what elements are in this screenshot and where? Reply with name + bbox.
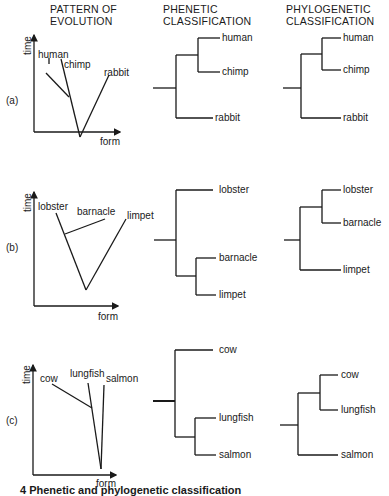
row-label-c: (c) — [6, 415, 18, 426]
figure-caption: 4 Phenetic and phylogenetic classificati… — [20, 484, 241, 496]
phylo-b-mid: barnacle — [343, 217, 382, 228]
phen-b-top: lobster — [219, 184, 250, 195]
y-axis-label-c: time — [21, 365, 32, 384]
phylogenetic-tree-b — [284, 190, 341, 270]
phen-b-mid: barnacle — [219, 252, 258, 263]
evo-label-cow: cow — [40, 373, 59, 384]
x-axis-label-b: form — [98, 311, 118, 322]
phylogenetic-tree-c — [280, 375, 338, 455]
x-axis-label-a: form — [100, 136, 120, 147]
phylo-c-bottom: salmon — [341, 449, 373, 460]
phylo-b-bottom: limpet — [343, 264, 370, 275]
phylo-c-top: cow — [341, 369, 360, 380]
evo-label-barnacle: barnacle — [77, 206, 116, 217]
evo-label-limpet: limpet — [127, 210, 154, 221]
phen-a-mid: chimp — [222, 66, 249, 77]
phen-b-bottom: limpet — [219, 289, 246, 300]
phylo-b-top: lobster — [343, 184, 374, 195]
row-label-a: (a) — [6, 95, 18, 106]
phen-a-bottom: rabbit — [215, 112, 240, 123]
phylo-a-mid: chimp — [343, 64, 370, 75]
evo-label-salmon: salmon — [106, 373, 138, 384]
evo-label-rabbit: rabbit — [104, 67, 129, 78]
phenetic-tree-a — [153, 38, 220, 118]
phen-c-mid: lungfish — [219, 412, 253, 423]
y-axis-label-a: time — [22, 36, 33, 55]
phylo-a-bottom: rabbit — [343, 112, 368, 123]
evo-label-chimp: chimp — [64, 59, 91, 70]
phylogenetic-tree-a — [283, 38, 341, 118]
evo-label-lobster: lobster — [38, 201, 69, 212]
phenetic-tree-b — [154, 190, 216, 295]
row-label-b: (b) — [6, 242, 18, 253]
phen-c-top: cow — [219, 344, 238, 355]
phen-a-top: human — [222, 32, 253, 43]
phylo-c-mid: lungfish — [341, 404, 375, 415]
phen-c-bottom: salmon — [219, 449, 251, 460]
phenetic-tree-c — [153, 350, 216, 455]
y-axis-label-b: time — [22, 193, 33, 212]
evo-label-lungfish: lungfish — [70, 368, 104, 379]
phylo-a-top: human — [343, 32, 374, 43]
